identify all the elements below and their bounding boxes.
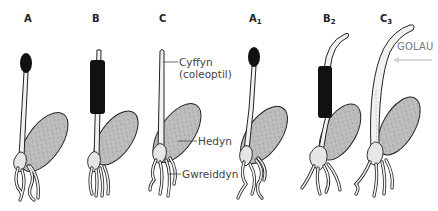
black-cap-icon — [248, 47, 260, 67]
phototropism-diagram: A B C A1 B2 C3 Cyffyn (coleoptil) Hedyn … — [0, 0, 438, 211]
panel-label-C3: C3 — [380, 14, 392, 26]
seedling-B2 — [302, 33, 369, 194]
seed-C — [144, 95, 211, 170]
annotation-coleoptile-line2: (coleoptil) — [179, 68, 232, 80]
black-sleeve-icon — [90, 60, 105, 114]
seedling-A — [11, 53, 78, 200]
sheath-B — [88, 151, 101, 172]
bent-tip-B2 — [324, 33, 349, 70]
annotation-seed: Hedyn — [198, 135, 232, 147]
panel-label-C: C — [159, 14, 166, 26]
annotation-roots: Gwreiddyn — [182, 168, 238, 180]
panel-label-B2: B2 — [323, 14, 336, 26]
light-arrow-icon — [393, 57, 432, 63]
seedling-A1 — [231, 47, 297, 198]
annotation-coleoptile-line1: Cyffyn — [179, 56, 232, 68]
panel-label-B: B — [92, 14, 100, 26]
panel-label-A: A — [24, 14, 32, 26]
black-sleeve-icon — [318, 66, 332, 118]
coleoptile-C — [158, 50, 164, 151]
seedling-B — [85, 50, 147, 196]
annotation-coleoptile: Cyffyn (coleoptil) — [179, 56, 232, 80]
panel-label-A1: A1 — [249, 14, 262, 26]
black-cap-icon — [20, 53, 32, 73]
light-label: GOLAU — [397, 41, 434, 52]
